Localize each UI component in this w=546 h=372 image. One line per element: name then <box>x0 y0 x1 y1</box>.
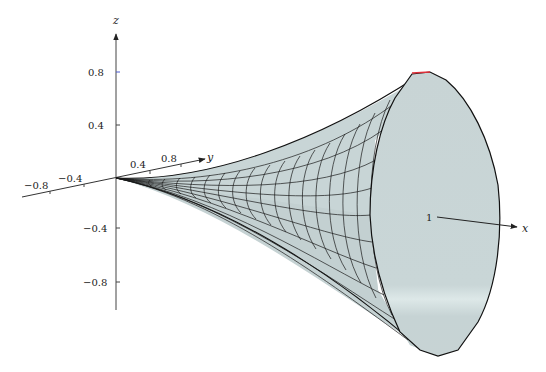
z-tick-label-0.8: 0.8 <box>88 67 104 78</box>
z-axis-label: z <box>112 14 119 27</box>
y-tick-label-neg-0.4: −0.4 <box>58 173 82 184</box>
surface-figure: z y x 0.8 0.4 −0.4 −0.8 −0.8 −0.4 0.4 0.… <box>0 0 546 372</box>
z-tick-label-0.4: 0.4 <box>88 120 104 131</box>
z-tick-label-neg-0.8: −0.8 <box>83 277 107 288</box>
rim-highlight <box>412 72 430 73</box>
y-tick-label-0.4: 0.4 <box>130 159 146 170</box>
x-tick-label-1: 1 <box>426 212 432 223</box>
x-axis-label: x <box>522 222 529 235</box>
y-tick-label-0.8: 0.8 <box>161 153 177 164</box>
y-tick-label-neg-0.8: −0.8 <box>24 180 48 191</box>
z-tick-label-neg-0.4: −0.4 <box>83 223 107 234</box>
y-axis-label: y <box>206 151 214 164</box>
